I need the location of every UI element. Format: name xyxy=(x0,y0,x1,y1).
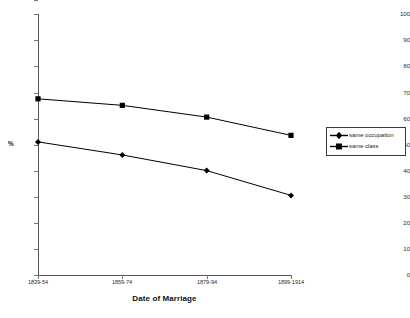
data-point xyxy=(35,96,40,101)
data-point xyxy=(288,133,293,138)
data-point xyxy=(35,139,41,145)
line-same-class xyxy=(38,99,291,136)
square-marker-icon xyxy=(329,141,349,152)
chart-legend: same occupation same class xyxy=(326,127,406,156)
legend-item-same-class[interactable]: same class xyxy=(329,141,403,152)
data-point xyxy=(120,103,125,108)
diamond-marker-icon xyxy=(329,130,349,141)
data-point xyxy=(204,168,210,174)
legend-item-same-occupation[interactable]: same occupation xyxy=(329,130,403,141)
line-same-occupation xyxy=(38,142,291,196)
legend-label-same-occupation: same occupation xyxy=(349,132,394,139)
data-point xyxy=(204,115,209,120)
data-point xyxy=(288,192,294,198)
legend-label-same-class: same class xyxy=(349,143,379,150)
data-point xyxy=(119,152,125,158)
line-chart: 100 90 80 70 60 50 40 30 20 10 0 % 1839-… xyxy=(0,0,410,318)
markers-same-class xyxy=(35,96,293,138)
series-layer xyxy=(0,0,410,318)
